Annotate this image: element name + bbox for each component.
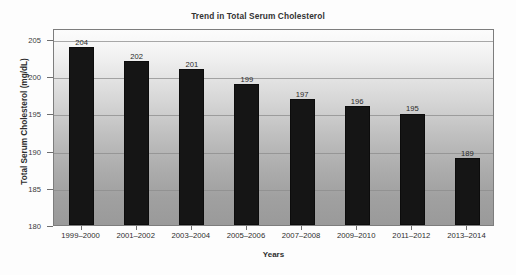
y-tick-label: 195 — [13, 110, 41, 119]
bar-value-label: 189 — [461, 149, 474, 158]
bar-value-label: 196 — [351, 97, 364, 106]
x-tick-mark — [356, 226, 357, 230]
x-tick-label: 2003–2004 — [172, 231, 210, 240]
bar[interactable] — [400, 114, 425, 226]
bar-value-label: 195 — [406, 104, 419, 113]
x-axis-title: Years — [53, 250, 494, 259]
y-tick-label: 190 — [13, 147, 41, 156]
bar[interactable] — [345, 106, 370, 225]
x-tick-label: 2001–2002 — [116, 231, 154, 240]
y-tick-label: 205 — [13, 36, 41, 45]
bar[interactable] — [124, 61, 149, 225]
bar-value-label: 202 — [130, 52, 143, 61]
y-axis-tick-group: 180185190195200205 — [0, 29, 53, 226]
gridline — [54, 41, 493, 42]
bar[interactable] — [290, 99, 315, 225]
x-tick-mark — [301, 226, 302, 230]
x-tick-mark — [191, 226, 192, 230]
x-axis-tick-group: 1999–20002001–20022003–20042005–20062007… — [53, 226, 494, 248]
gridline — [54, 115, 493, 116]
gridline — [54, 78, 493, 79]
bar-value-label: 199 — [241, 75, 254, 84]
bar-value-label: 204 — [75, 38, 88, 47]
y-tick-label: 185 — [13, 184, 41, 193]
x-tick-mark — [246, 226, 247, 230]
chart-figure: Trend in Total Serum Cholesterol Total S… — [0, 0, 516, 275]
x-tick-label: 2013–2014 — [447, 231, 485, 240]
y-tick-label: 180 — [13, 222, 41, 231]
x-tick-label: 2011–2012 — [392, 231, 430, 240]
bar[interactable] — [234, 84, 259, 225]
x-tick-label: 2009–2010 — [337, 231, 375, 240]
x-tick-mark — [81, 226, 82, 230]
x-tick-mark — [411, 226, 412, 230]
x-tick-mark — [136, 226, 137, 230]
x-tick-label: 1999–2000 — [61, 231, 99, 240]
x-tick-label: 2005–2006 — [227, 231, 265, 240]
x-tick-label: 2007–2008 — [282, 231, 320, 240]
gridline — [54, 153, 493, 154]
bar-value-label: 201 — [185, 60, 198, 69]
bar[interactable] — [455, 158, 480, 225]
y-tick-label: 200 — [13, 73, 41, 82]
x-tick-mark — [466, 226, 467, 230]
bar[interactable] — [179, 69, 204, 225]
chart-title: Trend in Total Serum Cholesterol — [0, 11, 516, 21]
plot-area: 204202201199197196195189 — [53, 29, 494, 226]
bar-value-label: 197 — [296, 90, 309, 99]
gridline — [54, 190, 493, 191]
bar[interactable] — [69, 47, 94, 225]
